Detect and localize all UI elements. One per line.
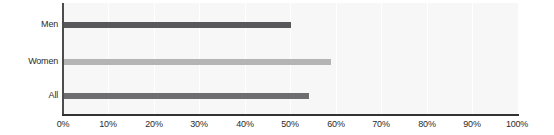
x-tick-label: 30% [190,119,207,129]
bar-women [63,59,331,65]
gridline [427,3,428,115]
y-tick-label: All [0,91,58,100]
x-tick-label: 70% [372,119,389,129]
x-tick-label: 10% [99,119,116,129]
y-tick-label: Women [0,57,58,66]
gridline [381,3,382,115]
y-tick-men: Men [0,20,58,29]
x-tick-label: 20% [145,119,162,129]
y-tick-all: All [0,91,58,100]
x-axis-line [62,114,519,116]
x-tick-label: 50% [281,119,298,129]
x-tick-label: 40% [236,119,253,129]
horizontal-bar-chart: Men Women All 0% 10% 20% 30% 40% 50% 60%… [0,0,554,135]
x-tick-label: 90% [463,119,480,129]
gridline [472,3,473,115]
bar-all [63,93,309,99]
gridline [336,3,337,115]
bar-men [63,22,291,28]
x-tick-label: 80% [418,119,435,129]
y-tick-women: Women [0,57,58,66]
y-axis-line [62,3,64,115]
x-tick-label: 60% [327,119,344,129]
x-tick-label: 0% [57,119,70,129]
x-tick-label: 100% [506,119,528,129]
y-tick-label: Men [0,20,58,29]
